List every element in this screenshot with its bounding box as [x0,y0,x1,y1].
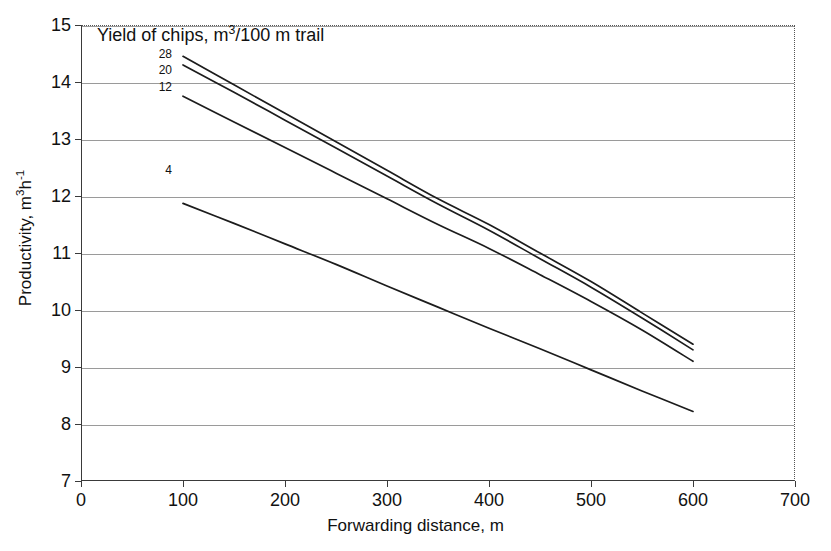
gridline-y-13 [82,140,794,141]
gridline-y-12 [82,197,794,198]
x-tick-label: 400 [459,489,519,511]
x-tick-label: 100 [153,489,213,511]
x-tick-label: 500 [561,489,621,511]
y-tick-label: 8 [31,415,71,433]
x-tick-label: 0 [51,489,111,511]
y-axis-title-exponent: 3 [14,190,26,196]
y-tick-label: 15 [31,16,71,34]
plot-area [81,25,795,481]
y-tick-label: 14 [31,73,71,91]
chart-container: 789101112131415 0100200300400500600700 F… [0,0,831,551]
series-label-28: 28 [146,47,172,61]
legend-title-exponent: 3 [228,23,235,37]
y-tick-label: 9 [31,358,71,376]
legend-title: Yield of chips, m3/100 m trail [97,25,324,46]
x-tick-mark-600 [693,481,694,487]
y-tick-label: 11 [31,244,71,262]
x-tick-label: 600 [663,489,723,511]
y-tick-mark-10 [75,310,81,311]
gridline-y-9 [82,368,794,369]
x-tick-label: 700 [765,489,825,511]
y-tick-label: 12 [31,187,71,205]
x-tick-mark-400 [489,481,490,487]
y-tick-mark-11 [75,253,81,254]
y-axis-title: Productivity, m3h-1 [16,108,36,368]
x-axis-title: Forwarding distance, m [0,516,831,536]
x-tick-mark-200 [285,481,286,487]
y-tick-label: 7 [31,472,71,490]
y-tick-mark-9 [75,367,81,368]
x-tick-label: 300 [357,489,417,511]
x-tick-mark-100 [183,481,184,487]
y-tick-mark-14 [75,82,81,83]
x-tick-mark-500 [591,481,592,487]
x-tick-mark-0 [81,481,82,487]
y-tick-mark-15 [75,25,81,26]
y-tick-label: 13 [31,130,71,148]
series-label-20: 20 [146,63,172,77]
gridline-y-10 [82,311,794,312]
gridline-y-8 [82,425,794,426]
series-label-4: 4 [146,163,172,177]
gridline-y-14 [82,83,794,84]
series-label-12: 12 [146,80,172,94]
gridline-y-11 [82,254,794,255]
y-tick-mark-12 [75,196,81,197]
y-axis-title-exponent-2: -1 [14,170,26,180]
y-tick-mark-13 [75,139,81,140]
x-tick-mark-700 [795,481,796,487]
x-tick-label: 200 [255,489,315,511]
y-tick-label: 10 [31,301,71,319]
y-tick-mark-8 [75,424,81,425]
x-tick-mark-300 [387,481,388,487]
